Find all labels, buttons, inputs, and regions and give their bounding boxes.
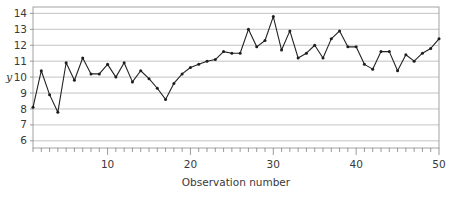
- data-point: [181, 72, 184, 75]
- data-point: [322, 56, 325, 59]
- data-point: [230, 52, 233, 55]
- y-axis-tick-label: 11: [14, 55, 27, 67]
- data-point: [280, 49, 283, 52]
- data-series-line: [33, 17, 439, 113]
- x-axis-tick-labels: 1020304050: [101, 158, 446, 170]
- x-axis-tick-label: 20: [184, 158, 197, 170]
- data-point: [371, 68, 374, 71]
- y-axis-tick-label: 13: [14, 23, 27, 35]
- data-point: [363, 63, 366, 66]
- data-point: [413, 60, 416, 63]
- data-point: [214, 58, 217, 61]
- data-point: [222, 50, 225, 53]
- data-point: [114, 76, 117, 79]
- gridlines-group: [30, 13, 439, 140]
- data-point: [313, 44, 316, 47]
- data-point: [305, 52, 308, 55]
- data-point: [255, 45, 258, 48]
- y-axis-tick-label: 10: [14, 71, 27, 83]
- data-point: [297, 56, 300, 59]
- data-point: [56, 111, 59, 114]
- y-axis-tick-label: 6: [20, 134, 27, 146]
- data-point: [206, 60, 209, 63]
- x-axis-minor-ticks: [33, 148, 439, 155]
- line-chart: 67891011121314 1020304050 y Observation …: [0, 0, 451, 199]
- y-axis-tick-label: 7: [20, 118, 27, 130]
- data-point-markers: [32, 15, 441, 114]
- x-axis-tick-label: 10: [101, 158, 114, 170]
- data-point: [264, 39, 267, 42]
- x-axis-title: Observation number: [182, 176, 291, 188]
- x-axis-tick-label: 30: [267, 158, 280, 170]
- data-point: [429, 47, 432, 50]
- data-point: [90, 72, 93, 75]
- y-axis-tick-label: 14: [14, 7, 28, 19]
- data-point: [346, 45, 349, 48]
- data-point: [404, 53, 407, 56]
- data-point: [81, 56, 84, 59]
- data-point: [98, 72, 101, 75]
- chart-container: 67891011121314 1020304050 y Observation …: [0, 0, 451, 199]
- x-axis-tick-label: 50: [432, 158, 445, 170]
- data-point: [123, 61, 126, 64]
- data-point: [189, 66, 192, 69]
- data-point: [288, 29, 291, 32]
- plot-frame: [33, 7, 439, 148]
- x-axis-tick-label: 40: [349, 158, 362, 170]
- data-point: [330, 37, 333, 40]
- y-axis-tick-label: 12: [14, 39, 27, 51]
- data-point: [156, 87, 159, 90]
- data-point: [239, 52, 242, 55]
- y-axis-tick-labels: 67891011121314: [14, 7, 28, 146]
- data-point: [247, 28, 250, 31]
- data-point: [32, 106, 35, 109]
- data-point: [172, 82, 175, 85]
- data-point: [73, 79, 76, 82]
- data-point: [48, 93, 51, 96]
- data-point: [131, 80, 134, 83]
- y-axis-tick-label: 8: [20, 103, 27, 115]
- data-point: [355, 45, 358, 48]
- data-point: [396, 69, 399, 72]
- data-point: [197, 63, 200, 66]
- data-point: [148, 77, 151, 80]
- data-point: [40, 69, 43, 72]
- data-point: [106, 63, 109, 66]
- data-point: [380, 50, 383, 53]
- data-point: [164, 98, 167, 101]
- y-axis-title: y: [5, 71, 13, 84]
- data-point: [65, 61, 68, 64]
- data-point: [139, 69, 142, 72]
- data-point: [421, 52, 424, 55]
- data-point: [388, 50, 391, 53]
- data-point: [438, 37, 441, 40]
- y-axis-tick-label: 9: [20, 87, 27, 99]
- data-point: [272, 15, 275, 18]
- data-point: [338, 29, 341, 32]
